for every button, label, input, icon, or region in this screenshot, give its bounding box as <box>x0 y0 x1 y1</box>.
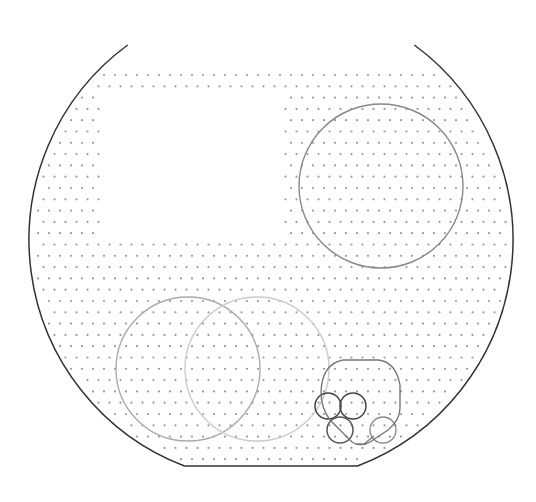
grid-dot <box>257 413 259 415</box>
grid-dot <box>499 187 501 189</box>
grid-dot <box>141 379 143 381</box>
grid-dot <box>64 266 66 268</box>
grid-dot <box>323 119 325 121</box>
grid-dot <box>290 164 292 166</box>
grid-dot <box>37 277 39 279</box>
grid-dot <box>218 334 220 336</box>
grid-dot <box>345 74 347 76</box>
grid-dot <box>334 436 336 438</box>
grid-dot <box>174 266 176 268</box>
grid-dot <box>218 289 220 291</box>
grid-dot <box>251 289 253 291</box>
grid-dot <box>103 390 105 392</box>
grid-dot <box>152 266 154 268</box>
grid-dot <box>92 277 94 279</box>
grid-dot <box>290 345 292 347</box>
grid-dot <box>213 277 215 279</box>
grid-dot <box>383 198 385 200</box>
grid-dot <box>64 334 66 336</box>
grid-dot <box>312 458 314 460</box>
grid-dot <box>279 323 281 325</box>
grid-dot <box>394 334 396 336</box>
grid-dot <box>317 356 319 358</box>
grid-dot <box>290 413 292 415</box>
grid-dot <box>455 164 457 166</box>
grid-dot <box>86 108 88 110</box>
grid-dot <box>367 119 369 121</box>
grid-dot <box>444 119 446 121</box>
grid-dot <box>273 266 275 268</box>
grid-dot <box>493 221 495 223</box>
grid-dot <box>312 277 314 279</box>
grid-dot <box>334 323 336 325</box>
grid-dot <box>345 232 347 234</box>
grid-dot <box>482 221 484 223</box>
grid-dot <box>284 243 286 245</box>
grid-dot <box>466 142 468 144</box>
grid-dot <box>449 176 451 178</box>
grid-dot <box>147 74 149 76</box>
grid-dot <box>48 187 50 189</box>
grid-dot <box>108 402 110 404</box>
grid-dot <box>37 232 39 234</box>
grid-dot <box>136 390 138 392</box>
grid-dot <box>81 368 83 370</box>
grid-dot <box>449 356 451 358</box>
grid-dot <box>59 164 61 166</box>
grid-dot <box>290 119 292 121</box>
grid-dot <box>433 345 435 347</box>
grid-dot <box>372 402 374 404</box>
grid-dot <box>323 323 325 325</box>
grid-dot <box>488 187 490 189</box>
grid-dot <box>301 232 303 234</box>
grid-dot <box>488 323 490 325</box>
grid-dot <box>125 345 127 347</box>
grid-dot <box>75 289 77 291</box>
grid-dot <box>191 390 193 392</box>
grid-dot <box>262 289 264 291</box>
grid-dot <box>163 356 165 358</box>
grid-dot <box>312 300 314 302</box>
grid-dot <box>372 85 374 87</box>
grid-dot <box>125 323 127 325</box>
grid-dot <box>312 97 314 99</box>
grid-dot <box>328 289 330 291</box>
grid-dot <box>141 85 143 87</box>
grid-dot <box>81 142 83 144</box>
grid-dot <box>224 436 226 438</box>
grid-dot <box>389 74 391 76</box>
grid-dot <box>416 266 418 268</box>
grid-dot <box>427 402 429 404</box>
grid-dot <box>345 277 347 279</box>
grid-dot <box>356 232 358 234</box>
grid-dot <box>130 356 132 358</box>
grid-dot <box>460 108 462 110</box>
grid-dot <box>323 277 325 279</box>
grid-dot <box>130 379 132 381</box>
grid-dot <box>97 402 99 404</box>
grid-dot <box>158 74 160 76</box>
grid-dot <box>433 255 435 257</box>
grid-dot <box>86 356 88 358</box>
grid-dot <box>317 289 319 291</box>
grid-dot <box>361 198 363 200</box>
grid-dot <box>394 85 396 87</box>
grid-dot <box>180 413 182 415</box>
grid-dot <box>174 379 176 381</box>
grid-dot <box>400 277 402 279</box>
grid-dot <box>213 255 215 257</box>
grid-dot <box>345 164 347 166</box>
grid-dot <box>323 164 325 166</box>
grid-dot <box>328 243 330 245</box>
grid-dot <box>317 266 319 268</box>
grid-dot <box>350 130 352 132</box>
grid-dot <box>466 119 468 121</box>
grid-dot <box>477 345 479 347</box>
grid-dot <box>75 108 77 110</box>
grid-dot <box>240 402 242 404</box>
grid-dot <box>213 345 215 347</box>
grid-dot <box>471 289 473 291</box>
grid-dot <box>471 311 473 313</box>
grid-dot <box>345 97 347 99</box>
grid-dot <box>279 390 281 392</box>
